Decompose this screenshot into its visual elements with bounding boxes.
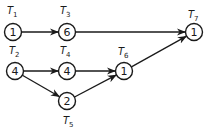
- node-label-t6: T6: [118, 46, 129, 60]
- node-weight: 1: [191, 26, 198, 39]
- edge-t5-t6: [75, 75, 117, 97]
- node-t1: 1: [5, 24, 22, 41]
- node-weight: 1: [10, 26, 17, 39]
- node-t5: 2: [59, 93, 76, 110]
- node-t7: 1: [186, 24, 203, 41]
- node-label-t4: T4: [60, 45, 71, 59]
- edges: [22, 32, 187, 97]
- node-label-t2: T2: [9, 45, 20, 59]
- node-weight: 2: [64, 95, 71, 108]
- edge-t6-t7: [131, 36, 186, 66]
- node-weight: 6: [64, 26, 71, 39]
- nodes: 1464211: [5, 24, 203, 110]
- node-label-t5: T5: [63, 115, 74, 129]
- edge-t2-t5: [22, 75, 59, 96]
- node-t3: 6: [59, 24, 76, 41]
- labels: T1T2T3T4T5T6T7: [7, 5, 199, 129]
- task-graph: 1464211 T1T2T3T4T5T6T7: [0, 0, 207, 135]
- node-label-t1: T1: [7, 5, 18, 19]
- node-t6: 1: [116, 63, 133, 80]
- node-weight: 4: [12, 65, 19, 78]
- node-t2: 4: [7, 63, 24, 80]
- node-weight: 4: [64, 65, 71, 78]
- node-weight: 1: [121, 65, 128, 78]
- node-label-t3: T3: [60, 5, 71, 19]
- node-t4: 4: [59, 63, 76, 80]
- node-label-t7: T7: [188, 9, 199, 23]
